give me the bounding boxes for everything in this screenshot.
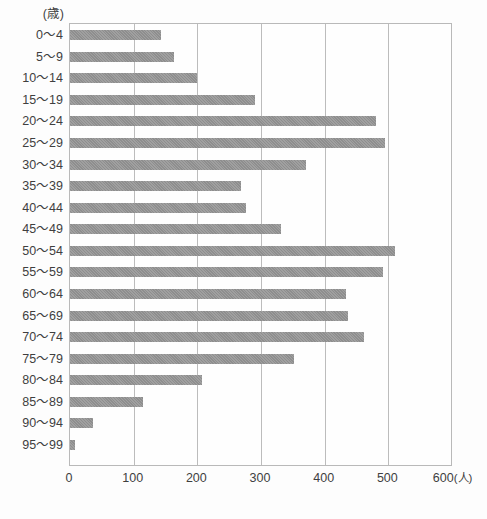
bar-track	[70, 111, 487, 133]
bar-track	[70, 154, 487, 176]
category-label-17: 85〜89	[0, 395, 63, 408]
category-label-2: 10〜14	[0, 72, 63, 85]
category-label-6: 30〜34	[0, 158, 63, 171]
bar-track	[70, 89, 487, 111]
bar-8	[70, 203, 246, 213]
bar-16	[70, 375, 202, 385]
x-tick-100: 100	[122, 472, 143, 485]
category-label-12: 60〜64	[0, 288, 63, 301]
bar-14	[70, 332, 364, 342]
bar-row: 85〜89	[0, 391, 487, 413]
bar-track	[70, 413, 487, 435]
bar-0	[70, 30, 161, 40]
bar-track	[70, 348, 487, 370]
bar-track	[70, 175, 487, 197]
category-label-16: 80〜84	[0, 374, 63, 387]
bar-row: 15〜19	[0, 89, 487, 111]
bar-row: 95〜99	[0, 434, 487, 456]
category-label-15: 75〜79	[0, 352, 63, 365]
bar-3	[70, 95, 255, 105]
x-axis-tick-labels: 0100200300400500600(人)	[0, 472, 487, 496]
bar-row: 0〜4	[0, 25, 487, 47]
category-label-7: 35〜39	[0, 180, 63, 193]
bar-row: 90〜94	[0, 413, 487, 435]
bar-row: 45〜49	[0, 219, 487, 241]
x-tick-600: 600(人)	[433, 472, 473, 485]
bar-rows: 0〜45〜910〜1415〜1920〜2425〜2930〜3435〜3940〜4…	[0, 23, 487, 466]
category-label-10: 50〜54	[0, 245, 63, 258]
category-label-9: 45〜49	[0, 223, 63, 236]
x-tick-300: 300	[250, 472, 271, 485]
bar-row: 25〜29	[0, 132, 487, 154]
bar-15	[70, 354, 294, 364]
bar-11	[70, 267, 383, 277]
population-bar-chart: (歳) 0〜45〜910〜1415〜1920〜2425〜2930〜3435〜39…	[0, 0, 487, 519]
bar-track	[70, 219, 487, 241]
bar-track	[70, 240, 487, 262]
bar-track	[70, 391, 487, 413]
bar-5	[70, 138, 385, 148]
y-axis-unit-label: (歳)	[0, 3, 64, 22]
category-label-13: 65〜69	[0, 309, 63, 322]
x-tick-400: 400	[313, 472, 334, 485]
bar-row: 35〜39	[0, 175, 487, 197]
bar-track	[70, 132, 487, 154]
category-label-0: 0〜4	[0, 29, 63, 42]
bar-4	[70, 116, 376, 126]
bar-row: 60〜64	[0, 283, 487, 305]
bar-track	[70, 369, 487, 391]
bar-row: 50〜54	[0, 240, 487, 262]
category-label-1: 5〜9	[0, 51, 63, 64]
bar-row: 80〜84	[0, 369, 487, 391]
bar-track	[70, 46, 487, 68]
bar-18	[70, 418, 93, 428]
category-label-3: 15〜19	[0, 94, 63, 107]
x-tick-0: 0	[66, 472, 73, 485]
bar-row: 65〜69	[0, 305, 487, 327]
bar-6	[70, 160, 306, 170]
bar-track	[70, 305, 487, 327]
x-tick-200: 200	[186, 472, 207, 485]
bar-track	[70, 25, 487, 47]
x-axis-unit-label: (人)	[454, 472, 473, 484]
bar-row: 30〜34	[0, 154, 487, 176]
category-label-4: 20〜24	[0, 115, 63, 128]
bar-track	[70, 326, 487, 348]
bar-10	[70, 246, 395, 256]
bar-row: 70〜74	[0, 326, 487, 348]
bar-1	[70, 52, 174, 62]
bar-19	[70, 440, 75, 450]
bar-7	[70, 181, 241, 191]
bar-row: 55〜59	[0, 262, 487, 284]
bar-12	[70, 289, 346, 299]
bar-row: 10〜14	[0, 68, 487, 90]
bar-track	[70, 283, 487, 305]
bar-row: 75〜79	[0, 348, 487, 370]
bar-row: 20〜24	[0, 111, 487, 133]
bar-2	[70, 73, 197, 83]
category-label-11: 55〜59	[0, 266, 63, 279]
bar-13	[70, 311, 348, 321]
category-label-8: 40〜44	[0, 201, 63, 214]
bar-17	[70, 397, 143, 407]
category-label-18: 90〜94	[0, 417, 63, 430]
bar-9	[70, 224, 281, 234]
bar-track	[70, 68, 487, 90]
bar-track	[70, 197, 487, 219]
x-tick-500: 500	[377, 472, 398, 485]
bar-track	[70, 262, 487, 284]
category-label-5: 25〜29	[0, 137, 63, 150]
bar-track	[70, 434, 487, 456]
category-label-14: 70〜74	[0, 331, 63, 344]
bar-row: 5〜9	[0, 46, 487, 68]
bar-row: 40〜44	[0, 197, 487, 219]
category-label-19: 95〜99	[0, 439, 63, 452]
